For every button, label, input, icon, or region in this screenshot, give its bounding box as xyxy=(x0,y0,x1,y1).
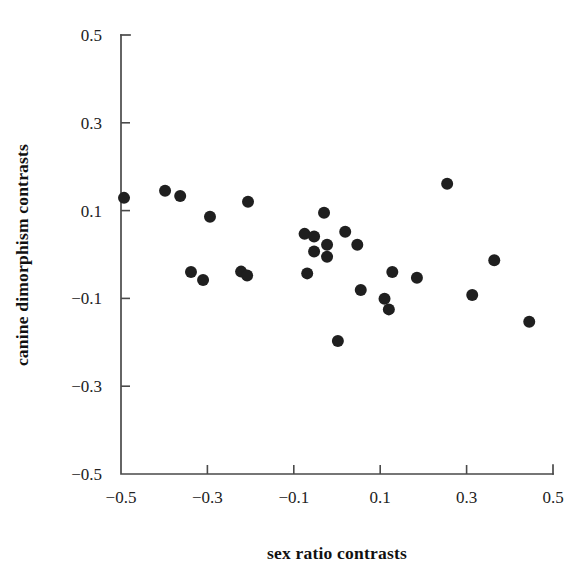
data-point xyxy=(197,274,209,286)
data-point xyxy=(118,192,130,204)
data-point xyxy=(308,245,320,257)
data-point xyxy=(339,226,351,238)
data-point xyxy=(308,231,320,243)
data-point xyxy=(321,239,333,251)
data-point xyxy=(488,254,500,266)
data-point xyxy=(355,284,367,296)
data-point xyxy=(441,178,453,190)
data-point xyxy=(242,196,254,208)
data-point xyxy=(321,251,333,263)
data-point xyxy=(351,239,363,251)
data-point xyxy=(411,272,423,284)
x-tick-label: 0.5 xyxy=(542,488,563,507)
data-point xyxy=(523,316,535,328)
y-tick-label: −0.1 xyxy=(71,289,102,308)
x-tick-label: −0.3 xyxy=(192,488,223,507)
y-tick-label: 0.5 xyxy=(81,26,102,45)
data-points xyxy=(118,178,535,347)
x-axis-tick-labels: −0.5−0.3−0.10.10.30.5 xyxy=(106,488,564,507)
x-tick-label: 0.1 xyxy=(370,488,391,507)
scatter-plot: −0.5−0.3−0.10.10.30.5 −0.5−0.3−0.10.10.3… xyxy=(0,0,587,580)
x-tick-label: 0.3 xyxy=(456,488,477,507)
data-point xyxy=(174,190,186,202)
data-point xyxy=(318,207,330,219)
axis-ticks xyxy=(121,123,467,474)
x-tick-label: −0.1 xyxy=(278,488,309,507)
y-axis-title: canine dimorphism contrasts xyxy=(12,144,32,366)
y-axis-tick-labels: −0.5−0.3−0.10.10.30.5 xyxy=(71,26,102,484)
data-point xyxy=(386,266,398,278)
y-tick-label: 0.3 xyxy=(81,114,102,133)
data-point xyxy=(185,266,197,278)
data-point xyxy=(466,289,478,301)
plot-axes xyxy=(121,35,553,474)
data-point xyxy=(383,303,395,315)
data-point xyxy=(241,270,253,282)
data-point xyxy=(301,267,313,279)
y-tick-label: −0.3 xyxy=(71,377,102,396)
y-tick-label: 0.1 xyxy=(81,202,102,221)
y-tick-label: −0.5 xyxy=(71,465,102,484)
axis-spine xyxy=(121,35,553,474)
data-point xyxy=(379,293,391,305)
x-axis-title: sex ratio contrasts xyxy=(267,543,407,563)
x-tick-label: −0.5 xyxy=(106,488,137,507)
data-point xyxy=(204,211,216,223)
data-point xyxy=(159,185,171,197)
chart-page: −0.5−0.3−0.10.10.30.5 −0.5−0.3−0.10.10.3… xyxy=(0,0,587,580)
data-point xyxy=(332,335,344,347)
